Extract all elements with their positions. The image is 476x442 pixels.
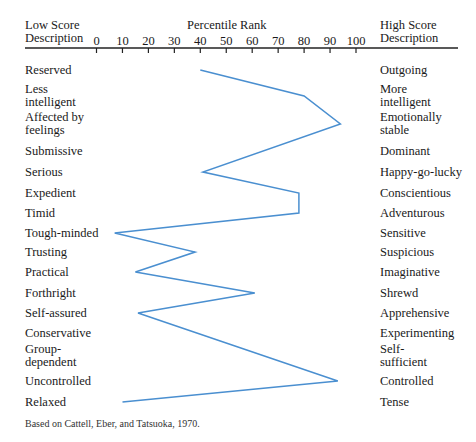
profile-chart (0, 0, 476, 442)
x-axis-ticks (97, 48, 357, 53)
footnote: Based on Cattell, Eber, and Tatsuoka, 19… (25, 418, 200, 429)
profile-line (115, 70, 341, 402)
